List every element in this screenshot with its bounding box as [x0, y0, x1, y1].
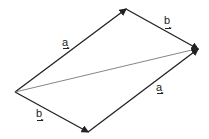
vector-b-upper: [126, 9, 198, 49]
label-b-lower: b: [36, 108, 42, 119]
vector-a-upper: [15, 9, 126, 92]
vector-arrow-icon: [63, 48, 69, 49]
vector-b-lower: [15, 92, 88, 132]
vector-diagram: [0, 0, 209, 139]
label-b-upper: b: [164, 15, 170, 26]
vector-arrow-icon: [37, 120, 43, 121]
vector-arrow-icon: [157, 93, 163, 94]
vector-arrow-icon: [165, 28, 171, 29]
